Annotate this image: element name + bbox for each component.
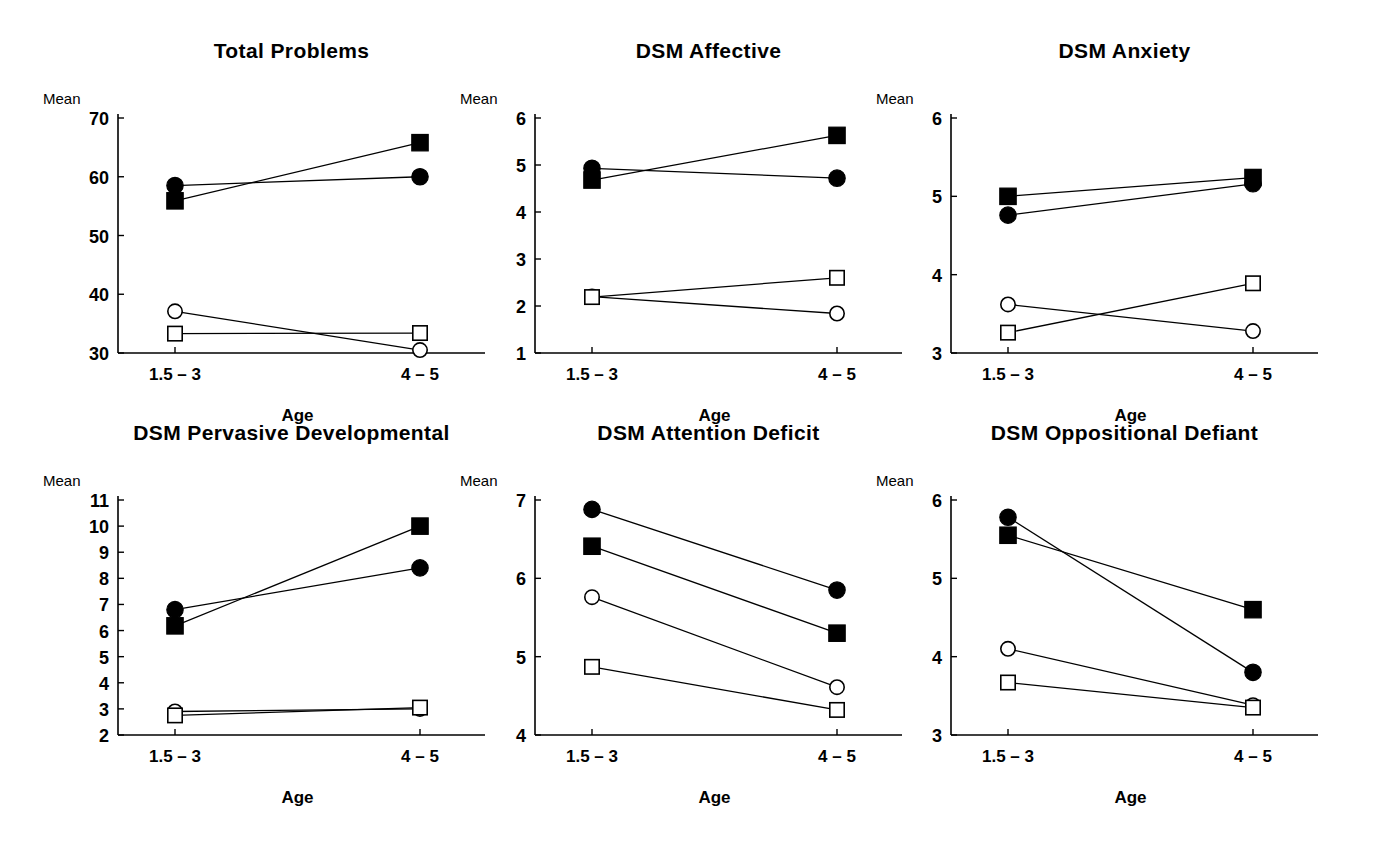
y-axis-name: Mean	[43, 472, 81, 489]
y-tick-label: 6	[932, 491, 942, 511]
data-point-marker-filled-square	[412, 518, 428, 534]
data-point-marker-filled-square	[1245, 601, 1261, 617]
y-tick-label: 3	[99, 700, 109, 720]
series-line-filled-square	[175, 526, 420, 626]
data-point-marker-open-circle	[1001, 297, 1015, 311]
data-point-marker-filled-circle	[1245, 664, 1261, 680]
y-tick-label: 3	[932, 344, 942, 364]
data-point-marker-open-square	[830, 271, 844, 285]
data-point-marker-open-square	[413, 700, 427, 714]
series-line-open-circle	[175, 311, 420, 350]
data-point-marker-open-circle	[413, 343, 427, 357]
y-tick-label: 6	[516, 569, 526, 589]
x-tick-label: 4 – 5	[401, 365, 439, 384]
y-tick-label: 6	[516, 109, 526, 129]
x-tick-label: 4 – 5	[401, 747, 439, 766]
data-point-marker-filled-square	[829, 625, 845, 641]
series-line-filled-square	[592, 546, 837, 633]
y-tick-label: 6	[932, 109, 942, 129]
data-point-marker-open-square	[1246, 700, 1260, 714]
y-tick-label: 40	[89, 285, 109, 305]
panel-title: DSM Attention Deficit	[597, 421, 819, 444]
data-point-marker-filled-square	[1000, 527, 1016, 543]
data-point-marker-filled-circle	[167, 601, 183, 617]
series-line-filled-circle	[1008, 184, 1253, 215]
x-axis-name: Age	[281, 788, 313, 807]
data-point-marker-filled-square	[1000, 188, 1016, 204]
series-line-open-square	[1008, 683, 1253, 708]
series-line-filled-square	[1008, 178, 1253, 197]
y-tick-label: 60	[89, 168, 109, 188]
data-point-marker-open-square	[830, 703, 844, 717]
data-point-marker-open-square	[585, 290, 599, 304]
data-point-marker-open-square	[168, 326, 182, 340]
data-point-marker-open-square	[413, 326, 427, 340]
data-point-marker-filled-circle	[1000, 509, 1016, 525]
chart-panel: Total ProblemsMean30405060701.5 – 34 – 5…	[35, 30, 485, 430]
data-point-marker-open-square	[1001, 675, 1015, 689]
y-tick-label: 5	[516, 648, 526, 668]
data-point-marker-filled-square	[584, 538, 600, 554]
y-tick-label: 4	[932, 648, 942, 668]
data-point-marker-filled-circle	[1000, 207, 1016, 223]
data-point-marker-filled-circle	[412, 560, 428, 576]
y-tick-label: 5	[99, 648, 109, 668]
data-point-marker-open-circle	[585, 590, 599, 604]
y-tick-label: 3	[516, 250, 526, 270]
y-axis-name: Mean	[876, 90, 914, 107]
chart-panel: DSM Oppositional DefiantMean34561.5 – 34…	[868, 412, 1323, 832]
data-point-marker-open-circle	[830, 306, 844, 320]
y-tick-label: 7	[99, 595, 109, 615]
panel-title: DSM Anxiety	[1059, 39, 1191, 62]
series-line-open-square	[592, 278, 837, 297]
y-tick-label: 9	[99, 543, 109, 563]
y-tick-label: 11	[90, 491, 109, 511]
series-line-filled-circle	[1008, 517, 1253, 672]
chart-panel: DSM Attention DeficitMean45671.5 – 34 – …	[452, 412, 902, 832]
y-axis-name: Mean	[460, 472, 498, 489]
y-tick-label: 2	[516, 297, 526, 317]
y-axis-name: Mean	[43, 90, 81, 107]
y-tick-label: 1	[516, 344, 526, 364]
data-point-marker-filled-square	[829, 127, 845, 143]
x-tick-label: 4 – 5	[1234, 365, 1272, 384]
y-tick-label: 4	[932, 266, 942, 286]
y-tick-label: 6	[99, 622, 109, 642]
y-tick-label: 5	[516, 156, 526, 176]
y-tick-label: 30	[89, 344, 109, 364]
series-line-open-circle	[1008, 649, 1253, 705]
data-point-marker-filled-square	[412, 134, 428, 150]
y-axis-name: Mean	[876, 472, 914, 489]
x-tick-label: 4 – 5	[818, 747, 856, 766]
panel-title: DSM Affective	[636, 39, 782, 62]
x-tick-label: 4 – 5	[818, 365, 856, 384]
y-tick-label: 3	[932, 726, 942, 746]
x-tick-label: 1.5 – 3	[566, 747, 618, 766]
chart-panel: DSM Pervasive DevelopmentalMean234567891…	[35, 412, 485, 832]
x-tick-label: 1.5 – 3	[982, 747, 1034, 766]
y-tick-label: 7	[516, 491, 526, 511]
chart-panel: DSM AnxietyMean34561.5 – 34 – 5Age	[868, 30, 1323, 430]
x-tick-label: 1.5 – 3	[149, 747, 201, 766]
data-point-marker-filled-square	[167, 618, 183, 634]
y-tick-label: 70	[89, 109, 109, 129]
y-tick-label: 4	[99, 674, 109, 694]
data-point-marker-open-square	[1001, 325, 1015, 339]
x-tick-label: 1.5 – 3	[982, 365, 1034, 384]
series-line-filled-circle	[175, 177, 420, 186]
data-point-marker-filled-square	[584, 172, 600, 188]
data-point-marker-filled-circle	[829, 170, 845, 186]
data-point-marker-filled-circle	[167, 177, 183, 193]
x-axis-name: Age	[1114, 788, 1146, 807]
y-tick-label: 50	[89, 227, 109, 247]
data-point-marker-open-square	[1246, 276, 1260, 290]
y-tick-label: 2	[99, 726, 109, 746]
panel-title: DSM Pervasive Developmental	[133, 421, 450, 444]
data-point-marker-filled-circle	[584, 501, 600, 517]
data-point-marker-open-square	[168, 708, 182, 722]
data-point-marker-filled-circle	[829, 582, 845, 598]
data-point-marker-open-circle	[830, 680, 844, 694]
x-tick-label: 1.5 – 3	[566, 365, 618, 384]
series-line-filled-square	[175, 143, 420, 201]
y-tick-label: 8	[99, 569, 109, 589]
